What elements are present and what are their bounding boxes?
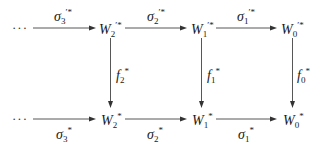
label-f0: f0* [297, 67, 310, 85]
label-bottom-sigma2: σ2* [147, 126, 163, 144]
node-W0-prime: W0′* [281, 21, 304, 39]
commutative-diagram: ··· σ3′* W2′* σ2′* W1′* σ1′* W0′* f2* f1… [0, 0, 317, 146]
label-f2: f2* [116, 67, 129, 85]
arrow-vertical-f0 [290, 38, 295, 108]
node-W1: W1* [192, 112, 213, 130]
arrow-vertical-f1 [199, 38, 204, 108]
bottom-ellipsis: ··· [12, 111, 28, 127]
node-W0: W0* [283, 112, 304, 130]
arrow-top-sigma1 [216, 26, 277, 31]
arrow-top-sigma2 [125, 26, 187, 31]
arrow-vertical-f2 [108, 38, 113, 108]
label-top-sigma2: σ2′* [147, 8, 165, 26]
label-top-sigma1: σ1′* [237, 8, 255, 26]
label-bottom-sigma1: σ1* [238, 126, 254, 144]
arrow-bottom-sigma3 [33, 117, 96, 122]
arrow-top-sigma3 [33, 26, 96, 31]
top-ellipsis: ··· [12, 20, 28, 36]
node-W1-prime: W1′* [191, 21, 214, 39]
node-W2-prime: W2′* [99, 21, 122, 39]
node-W2: W2* [101, 112, 122, 130]
arrow-bottom-sigma1 [216, 117, 277, 122]
label-top-sigma3: σ3′* [54, 8, 72, 26]
label-bottom-sigma3: σ3* [56, 126, 72, 144]
arrow-bottom-sigma2 [125, 117, 187, 122]
label-f1: f1* [207, 67, 220, 85]
